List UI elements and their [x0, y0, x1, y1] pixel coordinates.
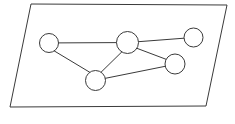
edge-left-to-bottom-center: [54, 51, 90, 73]
diagram-container: [0, 0, 235, 124]
graph-diagram-svg: [0, 0, 235, 124]
node-bottom-center: [86, 71, 106, 91]
node-group: [40, 28, 204, 91]
edge-center-to-bottom-right: [137, 48, 166, 59]
edge-center-to-top-right: [138, 38, 184, 42]
node-top-right: [184, 28, 203, 47]
node-left: [40, 34, 59, 53]
node-center: [117, 32, 139, 54]
edge-center-to-bottom-center: [101, 52, 122, 72]
node-bottom-right: [165, 54, 185, 74]
edge-bottom-center-to-bottom-right: [105, 66, 165, 78]
